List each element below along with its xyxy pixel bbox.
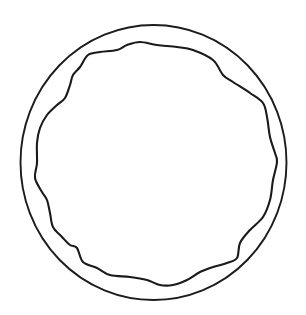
inner-wavy-outline	[35, 42, 277, 286]
outer-circle	[21, 25, 287, 300]
concentric-rings-drawing	[0, 0, 306, 315]
diagram-canvas	[0, 0, 306, 315]
